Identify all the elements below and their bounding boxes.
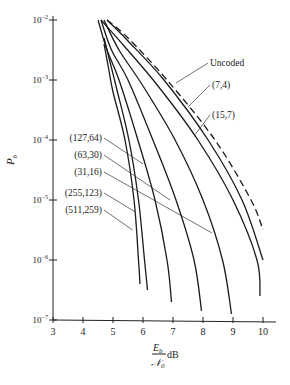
curve-uncoded	[107, 20, 263, 230]
x-label-num: E	[152, 342, 159, 353]
leader-7-4	[188, 85, 210, 107]
y-tick-label: 10−2	[33, 14, 48, 25]
x-axis-line	[53, 320, 276, 322]
y-tick-label: 10−4	[33, 134, 48, 145]
x-tick-label: 3	[51, 326, 56, 337]
y-tick-label: 10−7	[33, 314, 48, 325]
leader-127-64	[104, 138, 143, 164]
x-tick-label: 8	[201, 326, 206, 337]
label-127-64: (127,64)	[70, 133, 102, 144]
x-axis-label: Eb 𝒩0 dB	[151, 342, 179, 370]
y-axis-label-sub: b	[11, 154, 19, 158]
x-tick-label: 4	[81, 326, 86, 337]
x-label-unit: dB	[167, 349, 179, 360]
ber-chart: 34567891010−210−310−410−510−610−7 Uncode…	[0, 0, 290, 385]
label-uncoded: Uncoded	[210, 58, 245, 68]
label-63-30: (63,30)	[74, 150, 102, 161]
x-tick-label: 9	[231, 326, 236, 337]
svg-text:𝒩0: 𝒩0	[151, 357, 165, 370]
curve-127-64	[98, 20, 172, 302]
label-255-123: (255,123)	[65, 188, 102, 199]
label-31-16: (31,16)	[74, 167, 102, 178]
curve-63-30	[101, 20, 202, 311]
curve-511-259	[104, 44, 140, 284]
label-15-7: (15,7)	[212, 110, 235, 121]
curve-7-4	[107, 20, 263, 260]
svg-text:Pb: Pb	[4, 154, 19, 166]
x-tick-label: 10	[258, 326, 268, 337]
leader-255-123	[104, 193, 136, 212]
x-tick-label: 7	[171, 326, 176, 337]
y-tick-label: 10−3	[33, 74, 48, 85]
x-tick-label: 5	[111, 326, 116, 337]
leader-511-259	[104, 210, 133, 230]
svg-text:Eb: Eb	[152, 342, 163, 355]
y-axis-label: Pb	[4, 154, 19, 166]
label-7-4: (7,4)	[212, 80, 230, 91]
label-511-259: (511,259)	[65, 205, 102, 216]
y-tick-label: 10−6	[33, 254, 48, 265]
x-tick-label: 6	[141, 326, 146, 337]
y-tick-label: 10−5	[33, 194, 48, 205]
leader-uncoded	[176, 63, 208, 83]
x-label-den-sub: 0	[161, 362, 165, 370]
